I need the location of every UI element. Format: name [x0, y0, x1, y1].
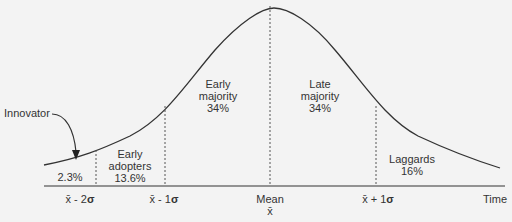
- tick-text: x̄ + 1: [362, 193, 386, 205]
- innovator-arrow: [52, 114, 76, 152]
- tick-text: x̄ - 2: [66, 193, 87, 205]
- tick-mean-symbol: x̄: [267, 205, 273, 217]
- early-adopters-percent: 13.6%: [114, 172, 145, 184]
- tick-minus-1-sigma: x̄ - 1σ: [150, 193, 179, 205]
- x-axis-label: Time: [483, 193, 507, 205]
- bell-curve: [44, 8, 500, 168]
- sigma-symbol: σ: [171, 193, 179, 205]
- laggards-label: Laggards: [389, 153, 435, 165]
- late-majority-label-2: majority: [301, 90, 340, 102]
- early-adopters-label-2: adopters: [109, 160, 152, 172]
- tick-mean: Mean: [256, 193, 284, 205]
- early-majority-label-2: majority: [199, 90, 238, 102]
- innovator-percent: 2.3%: [57, 171, 82, 183]
- tick-minus-2-sigma: x̄ - 2σ: [66, 193, 95, 205]
- tick-plus-1-sigma: x̄ + 1σ: [362, 193, 394, 205]
- sigma-symbol: σ: [87, 193, 95, 205]
- bell-curve-chart: [0, 0, 512, 222]
- late-majority-percent: 34%: [309, 102, 331, 114]
- sigma-symbol: σ: [386, 193, 394, 205]
- innovator-label: Innovator: [4, 107, 50, 119]
- late-majority-label-1: Late: [309, 78, 330, 90]
- early-adopters-label-1: Early: [117, 148, 142, 160]
- laggards-percent: 16%: [401, 165, 423, 177]
- early-majority-label-1: Early: [205, 78, 230, 90]
- early-majority-percent: 34%: [207, 102, 229, 114]
- tick-text: x̄ - 1: [150, 193, 171, 205]
